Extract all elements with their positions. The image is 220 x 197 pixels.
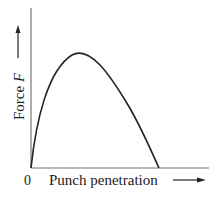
x-axis-arrow-icon: [173, 178, 206, 183]
y-axis-arrow-icon: [16, 25, 21, 58]
force-curve: [31, 53, 159, 168]
force-penetration-diagram: Force F 0 Punch penetration: [0, 0, 220, 197]
x-axis-label: Punch penetration: [49, 172, 158, 188]
y-axis-label: Force F: [11, 72, 27, 120]
origin-label: 0: [24, 173, 31, 188]
